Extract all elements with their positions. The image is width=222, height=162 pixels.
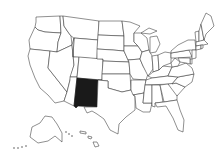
island-dot [68,133,69,134]
state-kansas: Kansas [102,61,130,74]
island-dot [71,135,72,136]
island-dot [17,147,18,148]
state-colorado: Colorado [77,57,103,80]
island-dot [13,147,14,148]
state-new-mexico-highlighted: New Mexico [74,78,98,108]
state-rhode-island: Rhode Island [201,45,203,49]
state-south-dakota: South Dakota [97,35,124,51]
state-alaska: Alaska [30,116,62,143]
state-vermont: Vermont [195,31,199,42]
island-dot [65,131,66,132]
state-north-dakota: North Dakota [98,21,124,36]
state-wyoming: Wyoming [73,38,98,59]
island-dot [21,146,22,147]
state-hawaii: Hawaii [80,131,99,147]
state-florida: Florida [155,100,184,132]
us-map: WashingtonOregonCaliforniaIdahoNevadaMon… [0,0,222,162]
state-arkansas: Arkansas [131,80,146,95]
state-delaware: Delaware [190,59,192,64]
state-connecticut: Connecticut [196,45,201,50]
state-maryland: Maryland [178,58,190,64]
state-new-jersey: New Jersey [192,50,196,59]
island-dot [25,145,26,146]
